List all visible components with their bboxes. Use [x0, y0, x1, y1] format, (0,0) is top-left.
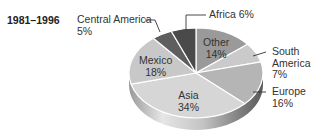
label-central-america-name: Central America	[77, 14, 152, 26]
label-other-name: Other	[203, 37, 229, 49]
label-africa: Africa 6%	[209, 9, 254, 21]
label-mexico-name: Mexico	[139, 55, 172, 67]
label-mexico-pct: 18%	[139, 67, 172, 79]
label-central-america-pct: 5%	[77, 26, 152, 38]
label-europe-pct: 16%	[272, 98, 306, 110]
label-asia-name: Asia	[178, 90, 199, 102]
label-south-america-pct: 7%	[272, 69, 311, 81]
label-south-america: South America 7%	[272, 46, 311, 81]
label-asia: Asia 34%	[178, 90, 199, 113]
label-central-america: Central America 5%	[77, 14, 152, 37]
label-other: Other 14%	[203, 37, 229, 60]
label-europe: Europe 16%	[272, 86, 306, 109]
label-mexico: Mexico 18%	[139, 55, 172, 78]
label-asia-pct: 34%	[178, 102, 199, 114]
label-europe-name: Europe	[272, 86, 306, 98]
label-south-america-line1: South	[272, 46, 311, 58]
label-other-pct: 14%	[203, 49, 229, 61]
